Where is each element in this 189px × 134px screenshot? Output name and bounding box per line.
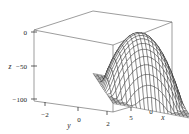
z-axis-label: z — [8, 62, 12, 71]
plot-canvas: 0 −50 −100 z −2 0 2 y 5 0 −5 x — [0, 0, 189, 134]
z-ticklabel-minus-50: −50 — [16, 63, 27, 71]
surface-mesh — [93, 32, 189, 118]
y-axis-label: y — [66, 121, 71, 130]
z-ticklabel-0: 0 — [24, 29, 28, 37]
z-ticklabel-minus-100: −100 — [13, 96, 28, 104]
y-ticklabel-2: 2 — [106, 120, 110, 128]
surface-plot-figure: 0 −50 −100 z −2 0 2 y 5 0 −5 x — [0, 0, 189, 134]
y-ticklabel-0: 0 — [77, 116, 81, 124]
x-axis-label: x — [160, 113, 165, 122]
y-ticklabel-minus-2: −2 — [41, 111, 49, 119]
x-ticklabel-5: 5 — [129, 114, 133, 122]
